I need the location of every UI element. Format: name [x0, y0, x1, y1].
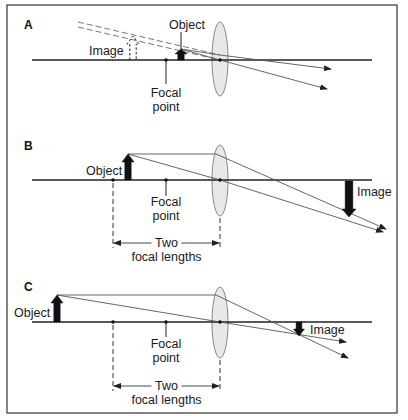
dimension-label-line2: focal lengths: [131, 393, 201, 407]
two-focal-point-dot: [111, 178, 115, 182]
image-label: Image: [89, 44, 124, 58]
focal-point-label-line1: Focal: [151, 195, 182, 209]
focal-point-label-line1: Focal: [151, 337, 182, 351]
dimension-label-line1: Two: [155, 379, 178, 393]
object-label: Object: [14, 306, 51, 320]
focal-point-label-line2: point: [152, 100, 180, 114]
lens-center-dot: [218, 58, 222, 62]
lens-center-dot: [218, 178, 222, 182]
lens-diagram-figure: AFocalpointObjectImageBFocalpointObjectI…: [0, 0, 408, 420]
object-label: Object: [169, 18, 206, 32]
dimension-label-line1: Two: [155, 236, 178, 250]
lens-center-dot: [218, 320, 222, 324]
two-focal-point-dot: [111, 320, 115, 324]
image-label: Image: [310, 323, 345, 337]
panel-label: A: [24, 18, 33, 32]
panel-label: C: [24, 280, 33, 294]
figure-border: [7, 5, 397, 413]
image-label: Image: [357, 185, 392, 199]
focal-point-label-line2: point: [152, 351, 180, 365]
dimension-label-line2: focal lengths: [131, 250, 201, 264]
object-label: Object: [86, 164, 123, 178]
focal-point-label-line1: Focal: [151, 86, 182, 100]
focal-point-label-line2: point: [152, 209, 180, 223]
panel-label: B: [24, 139, 33, 153]
diagram-canvas: AFocalpointObjectImageBFocalpointObjectI…: [0, 0, 408, 420]
